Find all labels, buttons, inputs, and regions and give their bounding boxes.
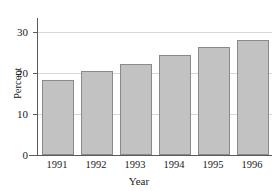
bars-layer	[38, 20, 272, 155]
bar-1995	[198, 47, 230, 155]
y-tick-label-30: 30	[0, 27, 28, 38]
bar-1996	[237, 40, 269, 155]
x-axis-line	[29, 155, 272, 156]
x-tick-label-1992: 1992	[77, 160, 115, 171]
x-tick-label-1995: 1995	[194, 160, 232, 171]
x-tick-label-1996: 1996	[233, 160, 271, 171]
bar-1992	[81, 71, 113, 155]
bar-chart-figure: 30 20 10 0 1991 1992 1993 1994 1995 1996…	[0, 0, 278, 191]
bar-1993	[120, 64, 152, 155]
y-tick-mark-0	[33, 155, 38, 156]
bar-1991	[42, 80, 74, 155]
x-axis-title: Year	[0, 176, 278, 187]
bar-1994	[159, 55, 191, 155]
y-tick-label-0: 0	[0, 150, 28, 161]
x-tick-label-1994: 1994	[155, 160, 193, 171]
y-axis-title: Percent	[13, 53, 24, 113]
x-tick-label-1991: 1991	[38, 160, 76, 171]
x-tick-label-1993: 1993	[116, 160, 154, 171]
